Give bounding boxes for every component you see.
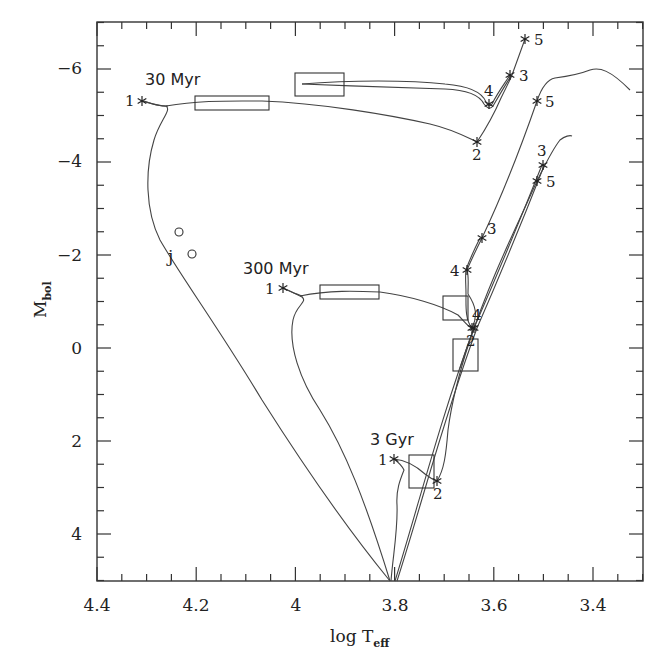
y-tick-labels: −6 −4 −2 0 2 4 [57,58,82,544]
marker-label: 3 [487,220,497,238]
y-tick-label: 4 [71,524,82,544]
marker-label: 2 [466,332,476,350]
star-marker-icon [463,265,472,275]
phase-box [195,96,269,110]
isochrone-3gyr [391,136,572,581]
age-label-30myr: 30 Myr [145,70,201,89]
x-tick-label: 4.4 [83,595,110,615]
marker-label: 2 [472,146,482,164]
y-tick-label: −2 [57,245,82,265]
x-tick-label: 3.4 [579,595,606,615]
marker-label: 3 [537,142,547,160]
age-label-300myr: 300 Myr [243,259,309,278]
y-tick-label: 2 [71,431,82,451]
marker-label: 1 [125,92,135,110]
age-label-3gyr: 3 Gyr [370,430,414,449]
star-marker-icon [478,233,487,243]
x-axis-ticks [97,22,643,581]
star-marker-icon [279,283,288,293]
star-marker-icon [521,34,530,44]
x-tick-label: 3.8 [381,595,408,615]
j-point-marker [175,228,183,236]
marker-label: 3 [519,67,529,85]
phase-box [443,296,468,320]
marker-label: 4 [472,306,482,324]
x-tick-label: 4.2 [182,595,209,615]
marker-label: 4 [450,262,460,280]
marker-label: 1 [265,280,275,298]
j-point-marker [188,250,196,258]
y-tick-label: −6 [57,58,82,78]
y-axis-ticks [97,23,643,581]
marker-label: 4 [484,82,494,100]
plot-frame [97,22,643,581]
marker-label: 1 [378,451,388,469]
isochrone-300myr [283,69,630,581]
x-tick-label: 4 [291,595,302,615]
x-tick-labels: 4.4 4.2 4 3.8 3.6 3.4 [83,595,606,615]
marker-label: 5 [545,93,555,111]
star-marker-icon [539,160,548,170]
j-label: j [166,246,173,266]
marker-label: 2 [433,485,443,503]
x-axis-title: log Teff [330,626,390,650]
marker-label: 5 [546,173,556,191]
y-tick-label: 0 [71,338,82,358]
x-tick-label: 3.6 [480,595,507,615]
marker-label: 5 [534,31,544,49]
hr-diagram-chart: 4.4 4.2 4 3.8 3.6 3.4 −6 −4 −2 0 2 4 log… [0,0,668,662]
star-marker-icon [533,96,542,106]
y-tick-label: −4 [57,151,82,171]
marker-labels: 1 2 3 4 5 1 2 3 4 5 1 2 3 4 5 [125,31,556,503]
y-axis-title: Mbol [30,281,54,318]
